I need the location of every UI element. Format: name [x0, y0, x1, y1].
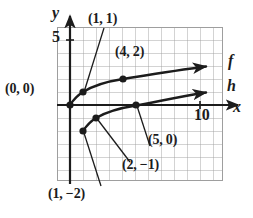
point-label-5-0: (5, 0)	[148, 133, 177, 147]
curve-label-h: h	[227, 78, 236, 94]
point-2-neg1	[92, 114, 99, 121]
point-label-1-1: (1, 1)	[88, 12, 117, 26]
y-axis-label: y	[52, 5, 59, 21]
x-tick-label-10: 10	[194, 107, 210, 123]
point-label-0-0: (0, 0)	[5, 82, 34, 96]
point-0-0	[66, 101, 73, 108]
point-label-4-2: (4, 2)	[115, 45, 144, 59]
graph-figure: y x 5 10 f h (1, 1) (4, 2) (0, 0) (5, 0)…	[0, 0, 253, 218]
x-axis-label: x	[233, 99, 241, 115]
point-1-neg2	[79, 127, 86, 134]
point-4-2	[119, 75, 126, 82]
coordinate-plane	[0, 0, 253, 218]
curve-label-f: f	[228, 53, 233, 69]
point-label-2-neg1: (2, −1)	[122, 158, 159, 172]
y-tick-label-5: 5	[52, 29, 60, 45]
point-1-1	[79, 88, 86, 95]
point-label-1-neg2: (1, −2)	[48, 187, 85, 201]
point-5-0	[132, 101, 139, 108]
